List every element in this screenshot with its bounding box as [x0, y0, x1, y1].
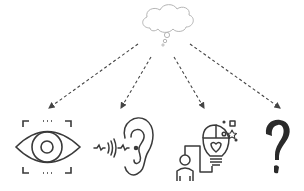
arrow-to-vision: [49, 44, 138, 108]
eye-icon: [16, 121, 80, 173]
arrow-to-hearing: [121, 57, 151, 108]
arrow-to-unknown: [190, 44, 280, 108]
ear-icon: [94, 118, 153, 175]
person-lightbulb-icon: [177, 121, 237, 181]
diagram-svg: [0, 0, 304, 191]
arrow-to-idea: [174, 57, 204, 108]
thought-bubble-icon: [143, 5, 194, 46]
diagram-canvas: [0, 0, 304, 191]
question-mark-icon: [266, 120, 290, 173]
